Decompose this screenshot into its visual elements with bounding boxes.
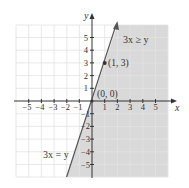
point-origin (91, 100, 94, 103)
point-origin-label: (0, 0) (97, 89, 118, 100)
inequality-graph: −5 −4 −3 −2 −1 1 2 3 4 5 1 2 3 4 5 −1 −2… (0, 0, 189, 188)
svg-text:2: 2 (84, 71, 88, 81)
svg-text:−5: −5 (22, 102, 31, 112)
svg-text:−5: −5 (81, 160, 90, 170)
svg-text:4: 4 (141, 102, 146, 112)
svg-text:5: 5 (84, 33, 88, 43)
svg-text:5: 5 (153, 102, 157, 112)
svg-text:−3: −3 (81, 134, 90, 144)
line-label: 3x = y (43, 149, 69, 160)
y-axis-label: y (83, 10, 89, 21)
svg-text:−2: −2 (61, 102, 70, 112)
region-label: 3x ≥ y (123, 34, 149, 45)
y-axis-arrow-icon (90, 13, 95, 19)
x-axis-label: x (174, 102, 180, 113)
svg-text:−2: −2 (81, 121, 90, 131)
svg-text:1: 1 (103, 102, 107, 112)
svg-text:2: 2 (115, 102, 119, 112)
point-1-3 (103, 61, 107, 65)
svg-text:−4: −4 (35, 102, 45, 112)
svg-text:3: 3 (128, 102, 132, 112)
svg-text:−4: −4 (81, 147, 91, 157)
svg-text:−1: −1 (81, 109, 90, 119)
point-1-3-label: (1, 3) (108, 58, 129, 69)
svg-text:1: 1 (84, 83, 88, 93)
svg-text:3: 3 (84, 58, 88, 68)
svg-text:−3: −3 (48, 102, 57, 112)
